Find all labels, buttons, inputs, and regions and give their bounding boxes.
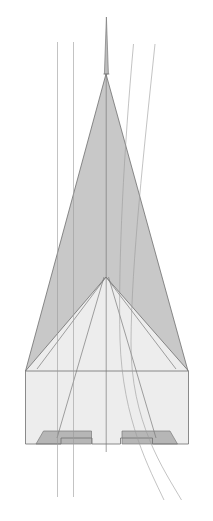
nozzle-left xyxy=(36,431,92,444)
nozzle-right xyxy=(122,431,178,444)
aircraft-plan-view-drawing xyxy=(0,0,213,521)
figure-container xyxy=(0,0,213,521)
